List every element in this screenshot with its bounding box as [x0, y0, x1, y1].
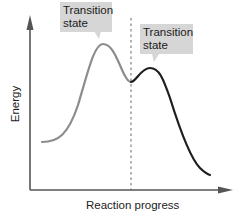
- y-axis-arrow-icon: [27, 15, 34, 30]
- label-2-line-2: state: [143, 39, 189, 52]
- label-pointer-1: [94, 31, 101, 39]
- label-2-line-1: Transition: [143, 26, 189, 39]
- x-axis-label: Reaction progress: [86, 199, 179, 211]
- energy-diagram: [0, 0, 235, 215]
- transition-state-label-2: Transition state: [140, 24, 193, 54]
- y-axis-label: Energy: [9, 83, 21, 125]
- label-1-line-2: state: [63, 17, 108, 30]
- x-axis-arrow-icon: [218, 187, 233, 194]
- label-1-line-1: Transition: [63, 4, 108, 17]
- curve-step-2: [131, 68, 210, 175]
- curve-step-1: [42, 44, 131, 142]
- label-pointer-2: [152, 54, 159, 62]
- transition-state-label-1: Transition state: [60, 2, 112, 32]
